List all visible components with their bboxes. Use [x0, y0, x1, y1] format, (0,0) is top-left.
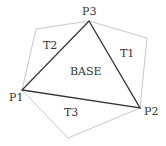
vertex-label-p2: P2	[144, 106, 158, 117]
region-label-base: BASE	[70, 66, 102, 77]
outer-polygon	[22, 21, 147, 138]
region-label-t2: T2	[43, 40, 57, 51]
region-label-t1: T1	[120, 48, 134, 59]
region-label-t3: T3	[64, 107, 78, 118]
vertex-label-p1: P1	[9, 92, 23, 103]
triangle-diagram: P3 P1 P2 BASE T1 T2 T3	[0, 0, 166, 146]
vertex-label-p3: P3	[82, 6, 96, 17]
